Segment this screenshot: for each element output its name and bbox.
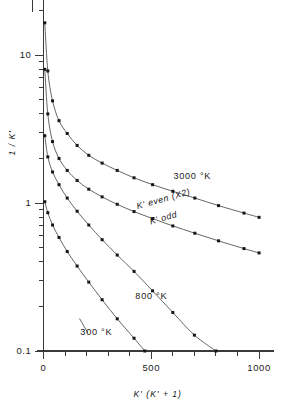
data-point-marker	[58, 157, 61, 160]
data-point-marker	[66, 132, 69, 135]
y-tick-label: 0.1	[16, 345, 31, 356]
data-curve	[45, 23, 259, 218]
data-point-marker	[171, 224, 174, 227]
data-point-marker	[87, 188, 90, 191]
data-point-marker	[133, 270, 136, 273]
data-curve	[45, 136, 216, 351]
data-point-marker	[217, 204, 220, 207]
axes-layer	[33, 0, 275, 359]
data-point-marker	[133, 210, 136, 213]
data-point-marker	[133, 176, 136, 179]
data-point-marker	[101, 298, 104, 301]
x-tick-label: 500	[142, 362, 160, 373]
data-point-marker	[116, 317, 119, 320]
data-point-marker	[242, 247, 245, 250]
data-point-marker	[76, 179, 79, 182]
data-point-marker	[58, 236, 61, 239]
data-point-marker	[51, 140, 54, 143]
data-point-marker	[193, 334, 196, 337]
data-point-marker	[43, 21, 46, 24]
data-point-marker	[242, 212, 245, 215]
x-axis-title: K' (K' + 1)	[134, 389, 182, 399]
data-point-marker	[66, 197, 69, 200]
data-point-marker	[58, 119, 61, 122]
data-point-marker	[116, 169, 119, 172]
curve-annotation: 300 °K	[80, 327, 112, 337]
markers-layer	[43, 21, 260, 352]
data-point-marker	[217, 239, 220, 242]
data-point-marker	[87, 154, 90, 157]
x-tick-label: 1000	[247, 362, 271, 373]
data-point-marker	[87, 224, 90, 227]
data-point-marker	[133, 337, 136, 340]
y-tick-label: 1	[26, 197, 32, 208]
data-point-marker	[66, 169, 69, 172]
data-point-marker	[46, 69, 49, 72]
data-point-marker	[51, 224, 54, 227]
data-point-marker	[116, 203, 119, 206]
data-point-marker	[214, 350, 217, 353]
data-point-marker	[43, 68, 46, 71]
data-point-marker	[101, 195, 104, 198]
data-point-marker	[46, 211, 49, 214]
data-point-marker	[171, 311, 174, 314]
data-point-marker	[87, 281, 90, 284]
data-point-marker	[76, 144, 79, 147]
data-point-marker	[151, 183, 154, 186]
data-point-marker	[43, 134, 46, 137]
data-point-marker	[43, 200, 46, 203]
data-point-marker	[258, 251, 261, 254]
y-axis-title: 1 / K'	[7, 130, 17, 155]
data-point-marker	[258, 216, 261, 219]
curves-layer	[45, 23, 259, 351]
data-point-marker	[76, 210, 79, 213]
curve-annotation: 3000 °K	[173, 171, 211, 181]
y-tick-label: 10	[20, 49, 32, 60]
data-point-marker	[116, 254, 119, 257]
curve-annotation: K' odd	[148, 209, 178, 227]
data-point-marker	[51, 170, 54, 173]
data-point-marker	[46, 112, 49, 115]
data-point-marker	[143, 350, 146, 353]
x-tick-label: 0	[41, 362, 47, 373]
data-point-marker	[46, 155, 49, 158]
curve-annotation: K' even (X2)	[135, 186, 191, 211]
figure-container: 0.111005001000K' (K' + 1)1 / K'3000 °KK'…	[0, 0, 284, 403]
curve-annotation: 800 °K	[135, 291, 167, 301]
data-point-marker	[101, 238, 104, 241]
data-point-marker	[51, 99, 54, 102]
data-point-marker	[66, 250, 69, 253]
data-point-marker	[193, 197, 196, 200]
data-point-marker	[193, 232, 196, 235]
data-point-marker	[58, 183, 61, 186]
data-point-marker	[76, 265, 79, 268]
data-point-marker	[101, 162, 104, 165]
semilog-plot: 0.111005001000K' (K' + 1)1 / K'3000 °KK'…	[0, 0, 284, 403]
